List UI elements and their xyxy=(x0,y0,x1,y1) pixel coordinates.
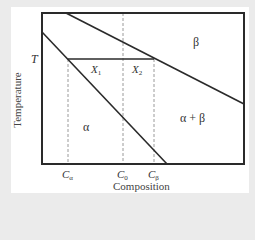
x2-label: X2 xyxy=(132,64,142,77)
y-axis-label: Temperature xyxy=(11,72,23,127)
alpha-beta-region-label: α + β xyxy=(180,112,205,124)
x-axis-label: Composition xyxy=(113,181,170,192)
c-alpha-tick-label: Cα xyxy=(62,169,73,182)
beta-region-label: β xyxy=(193,36,199,48)
x1-label: X1 xyxy=(91,64,101,77)
alpha-region-label: α xyxy=(83,121,89,133)
alpha-boundary-line xyxy=(42,32,167,164)
temperature-marker: T xyxy=(31,53,38,65)
